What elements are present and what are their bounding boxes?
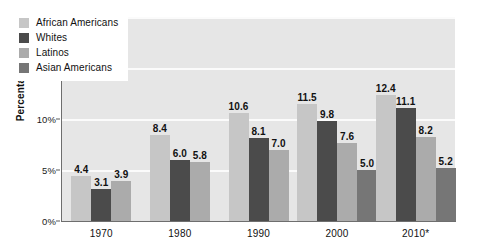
- bar-group: 10.68.17.0: [229, 17, 289, 221]
- bar[interactable]: 10.6: [229, 113, 249, 221]
- bar-value-label: 6.0: [173, 148, 187, 159]
- bar[interactable]: 11.1: [396, 108, 416, 221]
- legend-item-label: Latinos: [36, 47, 69, 58]
- bar-value-label: 4.4: [74, 164, 88, 175]
- bar-slot: 8.1: [249, 17, 269, 221]
- bar-value-label: 3.9: [114, 169, 128, 180]
- bar-slot: 7.6: [337, 17, 357, 221]
- bar-slot: 8.4: [150, 17, 170, 221]
- bar[interactable]: 7.6: [337, 143, 357, 221]
- bar-group: 11.59.87.65.0: [297, 17, 377, 221]
- bar-slot: 12.4: [376, 17, 396, 221]
- bar-slot: 11.1: [396, 17, 416, 221]
- legend-swatch-icon: [19, 18, 29, 28]
- chart-legend: African AmericansWhitesLatinosAsian Amer…: [12, 9, 128, 81]
- x-axis-tick-label: 1990: [224, 228, 294, 239]
- bar-slot: 11.5: [297, 17, 317, 221]
- bar[interactable]: 7.0: [269, 150, 289, 221]
- y-axis-tick-mark: [56, 119, 60, 120]
- x-axis-tick-label: 1980: [145, 228, 215, 239]
- bar-value-label: 8.4: [153, 123, 167, 134]
- bar-value-label: 5.2: [439, 156, 453, 167]
- bar-value-label: 5.8: [193, 150, 207, 161]
- legend-swatch-icon: [19, 33, 29, 43]
- bar[interactable]: 4.4: [71, 176, 91, 221]
- bar[interactable]: 6.0: [170, 160, 190, 221]
- bar[interactable]: 8.4: [150, 135, 170, 221]
- legend-item[interactable]: Whites: [19, 30, 118, 45]
- legend-item-label: Asian Americans: [36, 62, 112, 73]
- bar-slot: 7.0: [269, 17, 289, 221]
- bar-group: 8.46.05.8: [150, 17, 210, 221]
- bar[interactable]: 9.8: [317, 121, 337, 221]
- legend-item[interactable]: Asian Americans: [19, 60, 118, 75]
- bar-value-label: 9.8: [320, 109, 334, 120]
- y-axis-tick-mark: [56, 221, 60, 222]
- y-axis-tick-label: 10%: [16, 114, 56, 125]
- bar-value-label: 11.1: [396, 96, 415, 107]
- bar[interactable]: 3.1: [91, 189, 111, 221]
- x-axis-tick-label: 2010*: [381, 228, 451, 239]
- legend-swatch-icon: [19, 48, 29, 58]
- bar-slot: 8.2: [416, 17, 436, 221]
- bar-value-label: 3.1: [94, 177, 108, 188]
- bar[interactable]: 5.8: [190, 162, 210, 221]
- bar-slot: 5.0: [357, 17, 377, 221]
- bar-value-label: 10.6: [229, 101, 249, 112]
- bar-group: 12.411.18.25.2: [376, 17, 456, 221]
- bar-chart: Percentage 0%5%10%15%20% 4.43.13.98.46.0…: [0, 0, 477, 252]
- legend-item-label: Whites: [36, 32, 67, 43]
- x-axis-tick-label: 2000: [302, 228, 372, 239]
- y-axis-tick-label: 5%: [16, 165, 56, 176]
- bar-value-label: 7.0: [271, 138, 285, 149]
- bar-value-label: 12.4: [376, 83, 396, 94]
- y-axis-tick-mark: [56, 170, 60, 171]
- x-axis-tick-label: 1970: [66, 228, 136, 239]
- legend-item-label: African Americans: [36, 17, 118, 28]
- bar-slot: 10.6: [229, 17, 249, 221]
- bar[interactable]: 5.2: [436, 168, 456, 221]
- y-axis-tick-label: 0%: [16, 216, 56, 227]
- x-axis-line: [61, 221, 456, 222]
- bar-slot: 9.8: [317, 17, 337, 221]
- legend-item[interactable]: Latinos: [19, 45, 118, 60]
- bar[interactable]: 3.9: [111, 181, 131, 221]
- bar-value-label: 8.1: [251, 126, 265, 137]
- bar-slot: 6.0: [170, 17, 190, 221]
- bar-value-label: 8.2: [419, 125, 433, 136]
- legend-item[interactable]: African Americans: [19, 15, 118, 30]
- bar-slot: 5.8: [190, 17, 210, 221]
- bar[interactable]: 11.5: [297, 104, 317, 221]
- bar-slot: 5.2: [436, 17, 456, 221]
- bar[interactable]: 12.4: [376, 95, 396, 221]
- bar-value-label: 11.5: [297, 92, 316, 103]
- bar[interactable]: 5.0: [357, 170, 377, 221]
- legend-swatch-icon: [19, 63, 29, 73]
- bar[interactable]: 8.1: [249, 138, 269, 221]
- bar-value-label: 5.0: [360, 158, 374, 169]
- bar[interactable]: 8.2: [416, 137, 436, 221]
- bar-value-label: 7.6: [340, 131, 354, 142]
